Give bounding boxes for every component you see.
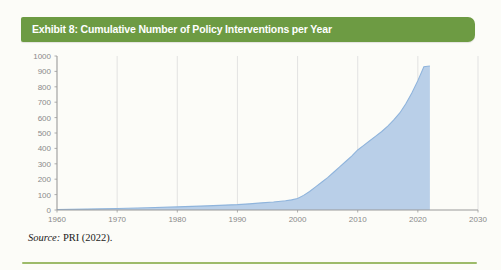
y-axis-tick-labels: 01002003004005006007008009001000 <box>33 52 57 215</box>
svg-text:100: 100 <box>38 191 52 200</box>
source-value: PRI (2022). <box>60 232 112 243</box>
source-caption: Source: PRI (2022). <box>28 232 112 243</box>
svg-text:0: 0 <box>47 206 52 215</box>
svg-text:200: 200 <box>38 175 52 184</box>
svg-text:1000: 1000 <box>33 52 51 61</box>
exhibit-figure: Exhibit 8: Cumulative Number of Policy I… <box>0 0 501 270</box>
chart-area-series <box>57 66 430 210</box>
svg-text:600: 600 <box>38 114 52 123</box>
svg-text:1990: 1990 <box>229 215 247 224</box>
svg-text:500: 500 <box>38 129 52 138</box>
bottom-divider-rule <box>22 262 477 264</box>
svg-text:2020: 2020 <box>409 215 427 224</box>
svg-text:1960: 1960 <box>48 215 66 224</box>
svg-text:2030: 2030 <box>469 215 487 224</box>
svg-text:800: 800 <box>38 83 52 92</box>
svg-text:2000: 2000 <box>289 215 307 224</box>
svg-text:900: 900 <box>38 67 52 76</box>
svg-text:300: 300 <box>38 160 52 169</box>
chart-plot-area: 01002003004005006007008009001000 1960197… <box>0 46 501 226</box>
svg-text:2010: 2010 <box>349 215 367 224</box>
svg-text:1970: 1970 <box>108 215 126 224</box>
svg-text:400: 400 <box>38 144 52 153</box>
source-label: Source: <box>28 232 60 243</box>
svg-text:1980: 1980 <box>168 215 186 224</box>
exhibit-title: Exhibit 8: Cumulative Number of Policy I… <box>32 17 332 42</box>
exhibit-title-banner: Exhibit 8: Cumulative Number of Policy I… <box>21 17 475 42</box>
area-chart-svg: 01002003004005006007008009001000 1960197… <box>0 46 501 226</box>
x-axis-tick-labels: 19601970198019902000201020202030 <box>48 210 487 224</box>
svg-text:700: 700 <box>38 98 52 107</box>
